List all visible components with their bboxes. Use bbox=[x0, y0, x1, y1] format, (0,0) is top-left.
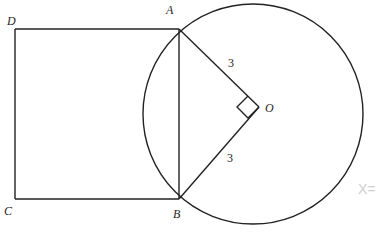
label-o: O bbox=[265, 101, 274, 115]
label-b: B bbox=[173, 207, 181, 221]
handwritten-note: X= bbox=[358, 181, 376, 197]
label-a: A bbox=[165, 3, 174, 17]
geometry-figure: A D C B O 3 3 X= bbox=[0, 0, 382, 236]
label-oa-length: 3 bbox=[228, 56, 234, 70]
radius-oa bbox=[179, 29, 259, 107]
label-c: C bbox=[4, 204, 13, 218]
label-ob-length: 3 bbox=[227, 151, 233, 165]
right-angle-marker bbox=[237, 96, 259, 118]
radius-ob bbox=[179, 107, 259, 199]
label-d: D bbox=[6, 14, 16, 28]
